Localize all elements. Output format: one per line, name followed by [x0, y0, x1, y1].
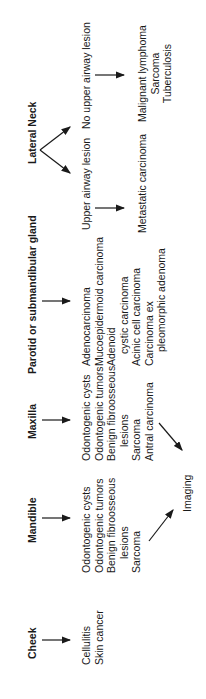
header-parotid: Parotid or submandibular gland — [26, 215, 38, 374]
list-item: Acinic cell carcinoma — [130, 237, 143, 366]
list-item: Antral carcinoma — [143, 366, 156, 461]
list-item: Carcinoma ex — [143, 237, 156, 366]
list-item: Odontogenic cysts — [80, 478, 93, 573]
list-item: Odontogenic tumors — [93, 366, 106, 461]
branch-no-upper-airway: No upper airway lesion — [80, 22, 92, 129]
list-item: cystic carcinoma — [118, 237, 131, 366]
list-maxilla: Odontogenic cysts Odontogenic tumors Ben… — [80, 366, 155, 461]
list-item: Adenocarcinoma — [80, 237, 93, 366]
list-item: Odontogenic tumors — [93, 478, 106, 573]
arrow-mandible-to-imaging — [149, 510, 173, 541]
list-item: Skin cancer — [93, 610, 106, 665]
list-mandible: Odontogenic cysts Odontogenic tumors Ben… — [80, 478, 143, 573]
list-item: Benign fibroosseous — [105, 478, 118, 573]
list-item: Malignant lymphoma — [136, 25, 149, 122]
list-item: Cellulitis — [80, 610, 93, 665]
list-item-metastatic: Metastatic carcinoma — [136, 134, 148, 233]
header-lateral-neck: Lateral Neck — [26, 102, 38, 164]
list-item: pleomorphic adenoma — [155, 237, 168, 366]
list-lateral-neck-no-airway: Malignant lymphoma Sarcoma Tuberculosis — [136, 25, 174, 122]
header-maxilla: Maxilla — [26, 404, 38, 439]
list-item: Mucoepidermoid carcinoma — [93, 237, 106, 366]
list-item: Sarcoma — [130, 478, 143, 573]
list-cheek: Cellulitis Skin cancer — [80, 610, 105, 665]
header-mandible: Mandible — [26, 497, 38, 543]
list-item: lesions — [118, 366, 131, 461]
arrow-no-upper-airway — [40, 127, 70, 150]
list-item: lesions — [118, 478, 131, 573]
arrow-maxilla-to-imaging — [159, 423, 182, 450]
list-item: Sarcoma — [149, 25, 162, 122]
list-item: Tuberculosis — [161, 25, 174, 122]
list-parotid: Adenocarcinoma Mucoepidermoid carcinoma … — [80, 237, 168, 366]
list-item: Sarcoma — [130, 366, 143, 461]
list-item: Adenoid — [105, 237, 118, 366]
header-cheek: Cheek — [26, 627, 38, 659]
list-item: Odontogenic cysts — [80, 366, 93, 461]
imaging-label: Imaging — [181, 475, 193, 512]
list-item: Benign fibroosseous — [105, 366, 118, 461]
branch-upper-airway: Upper airway lesion — [80, 138, 92, 230]
differential-diagnosis-diagram: Cheek Mandible Maxilla Parotid or subman… — [0, 0, 206, 699]
arrow-upper-airway — [40, 150, 70, 173]
